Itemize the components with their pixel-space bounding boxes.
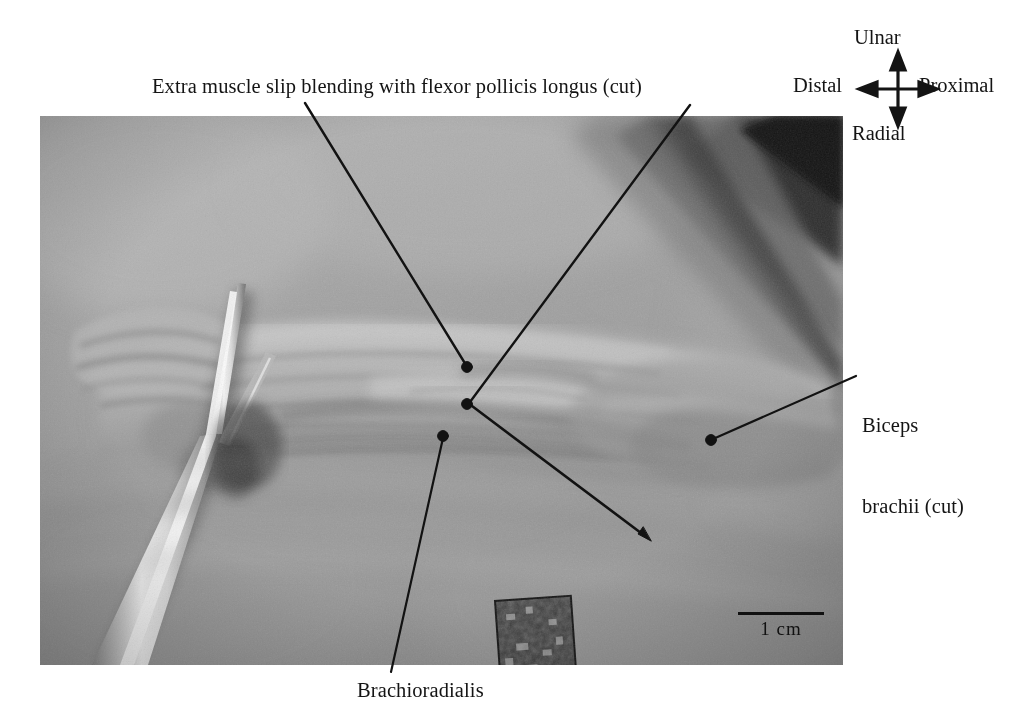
label-biceps-brachii: Biceps brachii (cut) xyxy=(862,358,964,574)
compass-arrowhead-down xyxy=(891,108,905,126)
label-biceps-line2: brachii (cut) xyxy=(862,493,964,520)
compass-arrowhead-right xyxy=(919,82,937,96)
label-extra-muscle-slip: Extra muscle slip blending with flexor p… xyxy=(152,74,642,99)
compass-arrow-cross xyxy=(793,26,1015,150)
compass-arrowhead-left xyxy=(859,82,877,96)
scale-bar-label: 1 cm xyxy=(738,618,824,640)
label-biceps-line1: Biceps xyxy=(862,412,964,439)
scale-bar: 1 cm xyxy=(738,612,824,640)
orientation-compass: Ulnar Distal Proximal Radial xyxy=(793,26,1015,150)
scale-bar-line xyxy=(738,612,824,615)
dissection-photograph xyxy=(40,116,843,665)
vignette xyxy=(40,116,843,665)
figure-root: 1 cm Extra muscle slip blending with fle… xyxy=(0,0,1035,725)
compass-arrowhead-up xyxy=(891,52,905,70)
label-brachioradialis: Brachioradialis xyxy=(357,678,484,703)
photograph-canvas xyxy=(40,116,843,665)
